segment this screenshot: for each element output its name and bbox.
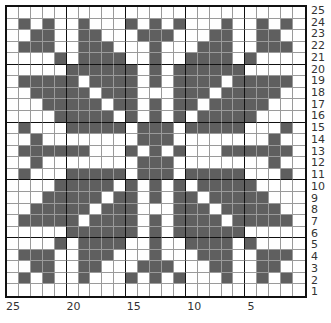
stitch-cell-contrast — [126, 111, 138, 123]
stitch-cell-contrast — [198, 42, 210, 54]
stitch-cell-main — [257, 111, 269, 123]
stitch-cell-contrast — [79, 238, 91, 250]
stitch-cell-contrast — [31, 157, 43, 169]
stitch-cell-contrast — [198, 204, 210, 216]
stitch-cell-main — [126, 30, 138, 42]
stitch-cell-contrast — [102, 238, 114, 250]
stitch-cell-contrast — [269, 204, 281, 216]
stitch-cell-main — [293, 76, 305, 88]
stitch-cell-contrast — [210, 215, 222, 227]
stitch-cell-contrast — [222, 261, 234, 273]
stitch-cell-main — [102, 30, 114, 42]
stitch-cell-contrast — [233, 192, 245, 204]
stitch-cell-main — [198, 19, 210, 31]
stitch-cell-contrast — [138, 30, 150, 42]
stitch-cell-contrast — [43, 99, 55, 111]
stitch-cell-main — [233, 42, 245, 54]
stitch-cell-main — [162, 250, 174, 262]
stitch-cell-main — [245, 284, 257, 296]
stitch-cell-contrast — [90, 30, 102, 42]
stitch-cell-main — [186, 111, 198, 123]
stitch-cell-contrast — [150, 111, 162, 123]
stitch-cell-contrast — [150, 215, 162, 227]
stitch-cell-contrast — [67, 204, 79, 216]
stitch-cell-main — [19, 53, 31, 65]
stitch-cell-main — [293, 180, 305, 192]
stitch-cell-contrast — [126, 65, 138, 77]
stitch-cell-contrast — [174, 204, 186, 216]
stitch-cell-main — [138, 76, 150, 88]
stitch-cell-main — [55, 169, 67, 181]
stitch-cell-contrast — [150, 192, 162, 204]
stitch-cell-contrast — [19, 273, 31, 285]
stitch-cell-contrast — [150, 250, 162, 262]
stitch-cell-main — [233, 7, 245, 19]
stitch-cell-main — [245, 19, 257, 31]
stitch-cell-main — [281, 88, 293, 100]
stitch-cell-contrast — [55, 192, 67, 204]
stitch-cell-contrast — [269, 215, 281, 227]
stitch-cell-main — [222, 284, 234, 296]
stitch-cell-main — [281, 30, 293, 42]
stitch-cell-contrast — [102, 42, 114, 54]
stitch-cell-contrast — [198, 65, 210, 77]
stitch-cell-contrast — [102, 204, 114, 216]
stitch-cell-main — [186, 7, 198, 19]
stitch-cell-main — [293, 111, 305, 123]
stitch-cell-main — [174, 157, 186, 169]
stitch-cell-contrast — [245, 238, 257, 250]
stitch-cell-contrast — [43, 76, 55, 88]
stitch-cell-contrast — [150, 238, 162, 250]
stitch-cell-main — [186, 134, 198, 146]
stitch-cell-main — [55, 134, 67, 146]
stitch-cell-contrast — [233, 146, 245, 158]
stitch-cell-contrast — [67, 227, 79, 239]
stitch-cell-contrast — [233, 215, 245, 227]
stitch-cell-main — [31, 53, 43, 65]
stitch-cell-contrast — [245, 53, 257, 65]
stitch-cell-contrast — [138, 157, 150, 169]
stitch-cell-main — [186, 19, 198, 31]
stitch-cell-contrast — [19, 42, 31, 54]
stitch-cell-main — [55, 227, 67, 239]
stitch-cell-contrast — [222, 180, 234, 192]
stitch-cell-contrast — [245, 88, 257, 100]
stitch-cell-contrast — [198, 123, 210, 135]
stitch-cell-main — [245, 261, 257, 273]
stitch-cell-contrast — [114, 169, 126, 181]
stitch-cell-main — [102, 261, 114, 273]
stitch-cell-contrast — [233, 65, 245, 77]
stitch-cell-main — [174, 42, 186, 54]
stitch-cell-main — [7, 284, 19, 296]
stitch-cell-main — [55, 261, 67, 273]
stitch-cell-contrast — [162, 30, 174, 42]
stitch-cell-contrast — [186, 215, 198, 227]
stitch-cell-contrast — [198, 227, 210, 239]
stitch-cell-contrast — [126, 192, 138, 204]
stitch-cell-contrast — [186, 192, 198, 204]
stitch-cell-main — [174, 134, 186, 146]
stitch-cell-main — [31, 65, 43, 77]
stitch-cell-contrast — [67, 169, 79, 181]
stitch-cell-main — [19, 134, 31, 146]
stitch-cell-main — [19, 261, 31, 273]
stitch-cell-main — [257, 180, 269, 192]
stitch-cell-contrast — [102, 111, 114, 123]
stitch-cell-contrast — [245, 192, 257, 204]
stitch-cell-contrast — [102, 180, 114, 192]
stitch-cell-main — [19, 30, 31, 42]
stitch-cell-main — [138, 284, 150, 296]
stitch-cell-contrast — [174, 111, 186, 123]
stitch-cell-contrast — [43, 30, 55, 42]
stitch-cell-main — [138, 146, 150, 158]
stitch-cell-contrast — [79, 88, 91, 100]
stitch-cell-main — [222, 157, 234, 169]
stitch-cell-contrast — [126, 215, 138, 227]
stitch-cell-main — [162, 227, 174, 239]
stitch-cell-main — [19, 157, 31, 169]
stitch-cell-main — [233, 134, 245, 146]
stitch-cell-contrast — [210, 42, 222, 54]
stitch-cell-contrast — [90, 76, 102, 88]
stitch-cell-contrast — [150, 146, 162, 158]
stitch-cell-main — [19, 180, 31, 192]
